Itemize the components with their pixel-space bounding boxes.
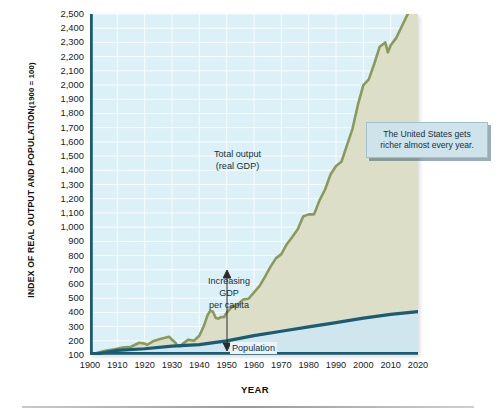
y-tick-1500: 1,500: [40, 151, 84, 160]
population-annotation: Population: [230, 342, 277, 354]
callout-text: The United States gets richer almost eve…: [380, 129, 474, 150]
y-tick-100: 100: [40, 350, 84, 359]
y-tick-200: 200: [40, 336, 84, 345]
y-tick-700: 700: [40, 265, 84, 274]
y-tick-1700: 1,700: [40, 123, 84, 132]
y-tick-1000: 1,000: [40, 222, 84, 231]
y-tick-2200: 2,200: [40, 52, 84, 61]
y-tick-900: 900: [40, 236, 84, 245]
y-axis-title: INDEX OF REAL OUTPUT AND POPULATION(1900…: [26, 15, 36, 345]
y-tick-1800: 1,800: [40, 108, 84, 117]
y-tick-1400: 1,400: [40, 165, 84, 174]
y-tick-400: 400: [40, 307, 84, 316]
y-tick-2100: 2,100: [40, 66, 84, 75]
y-tick-2300: 2,300: [40, 37, 84, 46]
per-capita-line2: GDP: [208, 287, 250, 299]
y-tick-300: 300: [40, 322, 84, 331]
y-tick-2400: 2,400: [40, 23, 84, 32]
plot-area: Total output (real GDP) Increasing GDP p…: [90, 14, 418, 355]
chart-canvas: [90, 14, 418, 355]
chart-figure: INDEX OF REAL OUTPUT AND POPULATION(1900…: [0, 0, 496, 417]
y-tick-1100: 1,100: [40, 208, 84, 217]
per-capita-line3: per capita: [208, 299, 250, 311]
y-tick-1200: 1,200: [40, 194, 84, 203]
y-tick-500: 500: [40, 293, 84, 302]
callout-box: The United States gets richer almost eve…: [366, 122, 488, 158]
total-output-line2: (real GDP): [214, 160, 261, 172]
y-axis-title-note: (1900 = 100): [27, 62, 36, 108]
y-tick-2000: 2,000: [40, 80, 84, 89]
per-capita-line1: Increasing: [208, 275, 250, 287]
y-tick-1900: 1,900: [40, 94, 84, 103]
y-axis-title-main: INDEX OF REAL OUTPUT AND POPULATION: [26, 108, 36, 298]
increasing-gdp-per-capita-annotation: Increasing GDP per capita: [208, 275, 250, 311]
y-tick-1300: 1,300: [40, 180, 84, 189]
y-tick-1600: 1,600: [40, 137, 84, 146]
x-tick-2020: 2020: [402, 360, 434, 370]
bottom-divider: [22, 406, 474, 408]
population-label-text: Population: [232, 343, 275, 353]
y-tick-600: 600: [40, 279, 84, 288]
total-output-line1: Total output: [214, 148, 261, 160]
y-tick-2500: 2,500: [40, 9, 84, 18]
y-axis-tick-labels: 2,5002,4002,3002,2002,1002,0001,9001,800…: [38, 0, 84, 417]
y-tick-800: 800: [40, 251, 84, 260]
x-axis-title: YEAR: [90, 384, 420, 395]
total-output-annotation: Total output (real GDP): [214, 148, 261, 172]
